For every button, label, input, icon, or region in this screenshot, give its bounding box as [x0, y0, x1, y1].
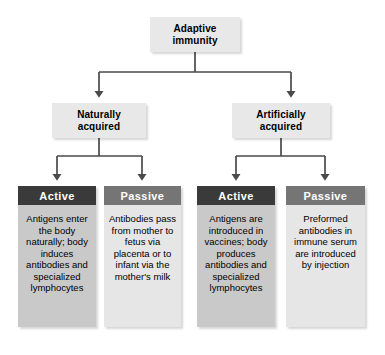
node-label-line1: Artificially [256, 109, 306, 120]
column-body-text: Preformed antibodies in immune serum are… [286, 205, 365, 327]
node-label-line2: acquired [78, 121, 120, 132]
node-artificially-acquired: Artificially acquired [232, 103, 330, 138]
node-label-line2: immunity [172, 35, 217, 46]
column-artificially-acquired-active: Active Antigens are introduced in vaccin… [197, 186, 275, 327]
column-header: Passive [286, 186, 365, 205]
column-artificially-acquired-passive: Passive Preformed antibodies in immune s… [286, 186, 365, 327]
node-adaptive-immunity-label: Adaptive immunity [172, 23, 217, 47]
column-header: Active [197, 186, 275, 205]
column-body-text: Antigens are introduced in vaccines; bod… [197, 205, 275, 327]
column-body-text: Antigens enter the body naturally; body … [18, 205, 96, 327]
node-label-line1: Adaptive [173, 23, 216, 34]
column-header: Passive [104, 186, 181, 205]
node-naturally-acquired-label: Naturally acquired [77, 109, 121, 133]
column-naturally-acquired-passive: Passive Antibodies pass from mother to f… [104, 186, 181, 327]
node-label-line1: Naturally [77, 109, 121, 120]
node-naturally-acquired: Naturally acquired [52, 103, 146, 138]
node-adaptive-immunity: Adaptive immunity [150, 17, 240, 52]
column-header: Active [18, 186, 96, 205]
column-body-text: Antibodies pass from mother to fetus via… [104, 205, 181, 327]
node-artificially-acquired-label: Artificially acquired [256, 109, 306, 133]
column-naturally-acquired-active: Active Antigens enter the body naturally… [18, 186, 96, 327]
adaptive-immunity-diagram: Adaptive immunity Naturally acquired Art… [0, 0, 385, 355]
node-label-line2: acquired [260, 121, 302, 132]
